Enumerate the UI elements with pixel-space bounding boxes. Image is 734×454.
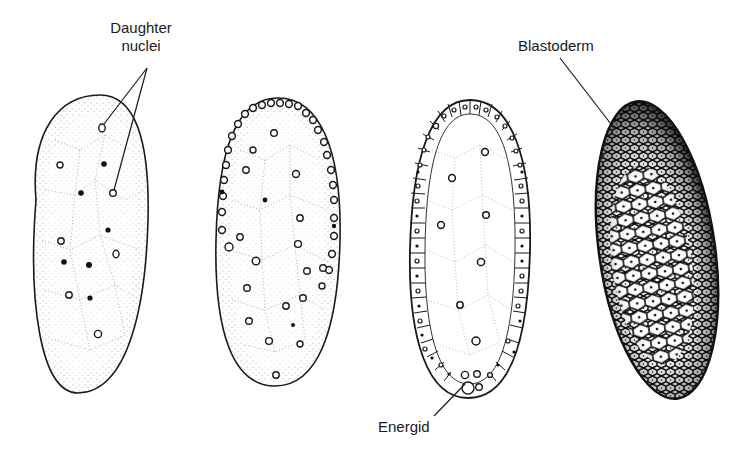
daughter-label-line1: Daughter: [96, 19, 186, 37]
embryo-stages-figure: Daughter nuclei Blastoderm Energid: [0, 0, 734, 454]
stage-4-blastoderm: [560, 58, 734, 410]
stage-3-egg: [410, 100, 530, 416]
blastoderm-label: Blastoderm: [518, 37, 594, 55]
blastoderm-leader-line: [560, 58, 614, 128]
nuclei-label-line2: nuclei: [96, 37, 186, 55]
daughter-nuclei-label: Daughter nuclei: [96, 19, 186, 55]
stage-2-egg: [216, 98, 340, 386]
energid-label: Energid: [378, 418, 430, 436]
embryo-illustration: [0, 0, 734, 454]
stage-1-egg: [34, 68, 149, 393]
